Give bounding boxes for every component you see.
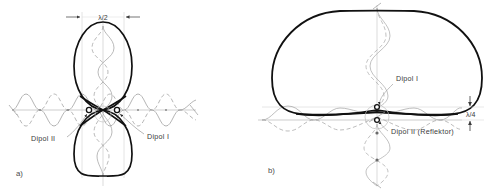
panel-a-node-dot	[39, 109, 41, 111]
panel-b-wave-vertical-upper-dashed	[366, 8, 386, 108]
panel-b: λ/4 Dipol I Dipol II (Reflektor) b)	[258, 3, 484, 188]
panel-b-feed-point-dipol-1	[375, 105, 380, 110]
panel-a-dimension-label: λ/2	[98, 14, 107, 21]
panel-b-node-dot	[375, 131, 378, 134]
panel-b-leader-dipol-2	[380, 121, 388, 131]
panel-a: λ/2	[9, 12, 198, 186]
panel-a-wave-vertical-dashed	[92, 26, 109, 176]
panel-b-label-dipol-2-reflektor: Dipol II (Reflektor)	[391, 127, 454, 136]
panel-a-dimension-lambda-half: λ/2	[66, 14, 140, 21]
panel-a-label-dipol-2: Dipol II	[31, 134, 55, 143]
antenna-radiation-pattern-figure: λ/2	[0, 0, 491, 191]
panel-b-wave-vertical-upper-solid	[370, 8, 390, 108]
panel-a-node-dot	[137, 109, 139, 111]
panel-b-dimension-label: λ/4	[466, 111, 475, 118]
panel-a-feed-point-dipol-1	[114, 107, 119, 112]
panel-b-label-dipol-1: Dipol I	[396, 74, 418, 83]
panel-a-node-dot	[165, 109, 167, 111]
panel-b-feed-point-dipol-2	[375, 118, 380, 123]
panel-a-label-dipol-1: Dipol I	[147, 132, 169, 141]
panel-a-caption: a)	[16, 169, 23, 178]
panel-a-node-dot	[67, 109, 69, 111]
panel-b-dimension-lambda-quarter: λ/4	[462, 96, 484, 131]
figure-canvas: λ/2	[0, 0, 491, 191]
panel-a-wave-vertical-solid	[97, 26, 114, 176]
panel-b-caption: b)	[268, 166, 275, 175]
panel-a-feed-point-dipol-2	[86, 107, 91, 112]
panel-b-node-dot	[375, 158, 378, 161]
